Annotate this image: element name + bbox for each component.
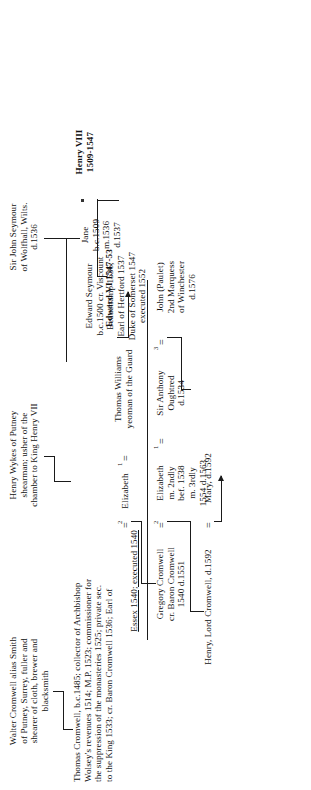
chart-canvas: Walter Cromwell alias Smith of Putney, S… (0, 0, 311, 790)
marriage-equals-elizabeth-williams: = (121, 455, 131, 461)
descent-line-edward-vi (97, 200, 119, 201)
node-henry-wykes: Henry Wykes of Putney shearman; usher of… (8, 382, 40, 528)
node-walter-cromwell: Walter Cromwell alias Smith of Putney, S… (8, 606, 51, 776)
marriage-equals-elizabeth-oughtred: = (157, 438, 167, 444)
node-thomas-cromwell-tail: Essex 1540; executed 1540 (118, 530, 139, 680)
marriage-equals-gregory-elizabeth: = (157, 522, 167, 528)
node-elizabeth-seymour: Elizabeth m. 2ndly bef. 1538 m. 3rdly 15… (155, 452, 208, 514)
marriage-equals-henry-mary: = (204, 522, 214, 528)
thomas-cromwell-underlined-text: Essex 1540; executed 1540 (129, 530, 139, 632)
tick-edward-seymour (117, 337, 128, 338)
marriage-marker-jane-henry (81, 199, 84, 202)
node-thomas-cromwell-main: Thomas Cromwell, b.c.1485; collector of … (72, 532, 115, 782)
node-sir-anthony-oughtred: Sir Anthony Oughtred d.1534 (155, 354, 187, 432)
drop-line-gregory (141, 583, 156, 584)
marriage-superscript-1-oughtred: 1 (153, 446, 160, 449)
sibling-bar-wykes (54, 456, 55, 482)
sibling-bar-walter (63, 691, 64, 730)
node-jane-seymour: Jane b.c.1509 m.1536 d.1537 (80, 208, 123, 262)
node-sir-john-seymour: Sir John Seymour of Wolfhall, Wilts. d.1… (8, 182, 40, 292)
continuation-arrow-henry-mary (221, 476, 222, 522)
node-mary: Mary, d.1592 (203, 440, 214, 516)
node-henry-viii: Henry VIII 1509-1547 (74, 110, 95, 194)
node-elizabeth-wykes: Elizabeth (120, 468, 131, 514)
continuation-arrow-edward-seymour (128, 292, 129, 338)
drop-line-elizabeth-wykes (54, 481, 71, 482)
node-edward-vi: Edward VI 1547-53 (104, 218, 115, 358)
drop-line-henry-cromwell (190, 611, 204, 612)
sibling-bar-gregory (141, 521, 142, 584)
drop-line-jane-seymour (66, 238, 80, 239)
descent-line-gregory-marriage (167, 521, 191, 522)
marriage-superscript-1-williams: 1 (117, 463, 124, 466)
sibling-bar-paulet (181, 337, 182, 390)
marriage-superscript-3-paulet: 3 (153, 347, 160, 350)
drop-line-paulet-child (181, 389, 191, 390)
genealogy-chart: Walter Cromwell alias Smith of Putney, S… (0, 0, 311, 790)
marriage-equals-thomas-elizabeth: = (121, 522, 131, 528)
descent-line-seymour (44, 238, 66, 239)
descent-line-paulet (167, 337, 181, 338)
descent-line-thomas-cromwell-marriage (131, 521, 141, 522)
marriage-equals-elizabeth-paulet: = (157, 339, 167, 345)
node-gregory-cromwell: Gregory Cromwell cr. Baron Cromwell 1540… (155, 530, 187, 638)
sibling-bar-henry-cromwell (190, 521, 191, 612)
node-henry-lord-cromwell: Henry, Lord Cromwell, d.1592 (203, 534, 214, 680)
node-john-paulet: John (Paulet) 2nd Marquess of Winchester… (155, 241, 198, 333)
line-to-edward-vi (97, 199, 98, 277)
sibling-bar-seymour (66, 238, 67, 362)
